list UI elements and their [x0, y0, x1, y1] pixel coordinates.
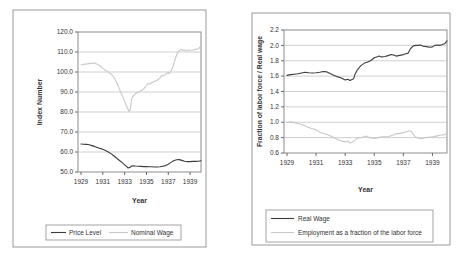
x-axis-title: Year [358, 186, 373, 193]
y-tick-label: 1.8 [270, 57, 279, 64]
y-tick-label: 120.0 [57, 28, 74, 35]
two-line-charts-canvas: 50.060.070.080.090.0100.0110.0120.019291… [0, 0, 460, 260]
y-tick-label: 90.0 [60, 88, 73, 95]
x-tick-label: 1935 [139, 178, 154, 185]
y-tick-label: 1.4 [270, 88, 279, 95]
x-tick-label: 1939 [425, 159, 440, 166]
y-tick-label: 2.0 [270, 42, 279, 49]
x-tick-label: 1939 [183, 178, 198, 185]
y-tick-label: 0.6 [270, 149, 279, 156]
figure: 50.060.070.080.090.0100.0110.0120.019291… [0, 0, 460, 260]
real-wage-employment-chart: 0.60.81.01.21.41.61.82.02.21929193119331… [252, 13, 450, 245]
y-tick-label: 110.0 [57, 48, 73, 55]
y-tick-label: 1.0 [270, 118, 279, 125]
legend-label: Employment as a fraction of the labor fo… [298, 229, 422, 237]
x-tick-label: 1935 [367, 159, 382, 166]
x-tick-label: 1931 [309, 159, 324, 166]
legend-label: Nominal Wage [131, 229, 174, 237]
legend-box [266, 210, 433, 242]
x-tick-label: 1933 [338, 159, 353, 166]
y-tick-label: 50.0 [60, 168, 73, 175]
y-tick-label: 70.0 [60, 128, 73, 135]
y-axis-title: Index Number [36, 78, 43, 125]
plot-area [78, 32, 201, 172]
x-tick-label: 1937 [161, 178, 176, 185]
x-axis-title: Year [132, 197, 147, 204]
x-tick-label: 1937 [396, 159, 411, 166]
y-axis-title: Fraction of labor force / Real wage [256, 36, 264, 147]
x-tick-label: 1933 [117, 178, 132, 185]
y-tick-label: 1.2 [270, 103, 279, 110]
y-tick-label: 60.0 [60, 148, 73, 155]
y-tick-label: 0.8 [270, 134, 279, 141]
y-tick-label: 1.6 [270, 72, 279, 79]
x-tick-label: 1929 [280, 159, 295, 166]
x-tick-label: 1931 [96, 178, 111, 185]
legend-label: Real Wage [298, 215, 330, 223]
y-tick-label: 2.2 [270, 26, 279, 33]
x-tick-label: 1929 [74, 178, 89, 185]
legend-label: Price Level [69, 229, 102, 236]
y-tick-label: 100.0 [57, 68, 74, 75]
price-level-nominal-wage-chart: 50.060.070.080.090.0100.0110.0120.019291… [13, 10, 206, 247]
y-tick-label: 80.0 [60, 108, 73, 115]
